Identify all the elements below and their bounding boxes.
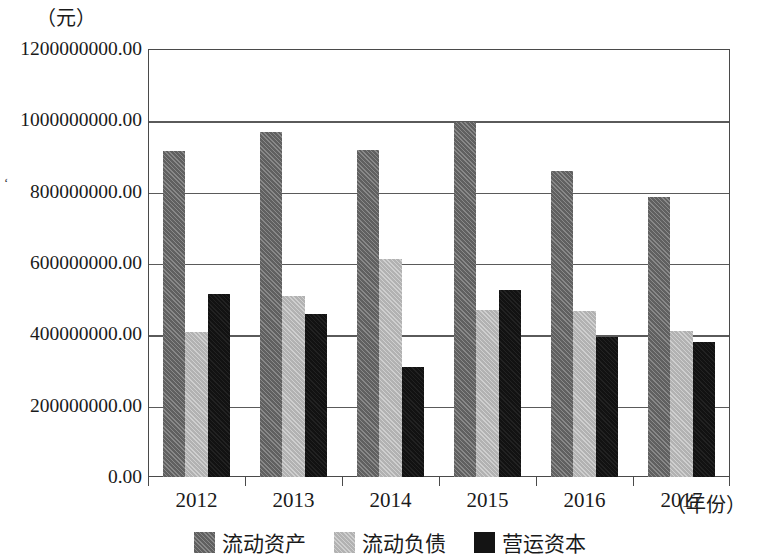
bar-2016-liabilities — [573, 311, 596, 477]
y-axis-tick-label: 800000000.00 — [30, 182, 142, 202]
x-axis-tick — [633, 477, 634, 486]
x-axis-tick-label-2012: 2012 — [176, 489, 218, 512]
y-axis-tick-label: 1200000000.00 — [20, 39, 142, 59]
bar-2017-liabilities — [670, 331, 693, 477]
legend-item-营运资本[interactable]: 营运资本 — [474, 527, 586, 557]
legend-label: 营运资本 — [502, 527, 586, 557]
bar-2015-capital — [499, 290, 522, 477]
y-axis-tick-labels: 0.00200000000.00400000000.00600000000.00… — [0, 0, 142, 560]
x-axis-tick-label-2014: 2014 — [370, 489, 412, 512]
bar-2013-capital — [305, 314, 328, 477]
bars-layer — [148, 49, 730, 477]
legend-item-流动负债[interactable]: 流动负债 — [334, 527, 446, 557]
legend-item-流动资产[interactable]: 流动资产 — [194, 527, 306, 557]
bar-2017-capital — [693, 342, 716, 477]
x-axis-tick-label-2015: 2015 — [467, 489, 509, 512]
x-axis-title: （年份） — [666, 489, 746, 518]
x-axis-tick — [729, 477, 730, 486]
legend-label: 流动资产 — [222, 527, 306, 557]
x-axis-tick-labels: 201220132014201520162017 — [0, 489, 780, 519]
x-axis-tick-label-2013: 2013 — [273, 489, 315, 512]
y-axis-tick-label: 0.00 — [108, 467, 142, 487]
y-axis-tick-label: 400000000.00 — [30, 325, 142, 345]
bar-2016-capital — [596, 337, 619, 477]
bar-2012-capital — [208, 294, 231, 477]
bar-2014-assets — [357, 150, 380, 477]
legend-label: 流动负债 — [362, 527, 446, 557]
dark-gray-hatched-swatch — [194, 532, 215, 553]
x-axis-tick-label-2016: 2016 — [564, 489, 606, 512]
black-swatch — [474, 532, 495, 553]
bar-chart-figure: （元） ‘ 0.00200000000.00400000000.00600000… — [0, 0, 780, 560]
x-axis-tick — [536, 477, 537, 486]
bar-2016-assets — [551, 171, 574, 477]
x-axis-tick — [342, 477, 343, 486]
x-axis-tick — [245, 477, 246, 486]
bar-2012-liabilities — [185, 332, 208, 477]
bar-2013-assets — [260, 132, 283, 477]
x-axis-tick — [439, 477, 440, 486]
bar-2012-assets — [163, 151, 186, 477]
y-axis-tick-label: 1000000000.00 — [20, 111, 142, 131]
bar-2017-assets — [648, 197, 671, 477]
y-axis-tick-label: 600000000.00 — [30, 253, 142, 273]
chart-legend: 流动资产流动负债营运资本 — [0, 527, 780, 557]
bar-2014-liabilities — [379, 259, 402, 477]
bar-2013-liabilities — [282, 296, 305, 477]
bar-2014-capital — [402, 367, 425, 477]
bar-2015-assets — [454, 122, 477, 477]
x-axis-tick — [148, 477, 149, 486]
bar-2015-liabilities — [476, 310, 499, 477]
light-gray-hatched-swatch — [334, 532, 355, 553]
y-axis-tick-label: 200000000.00 — [30, 396, 142, 416]
x-axis-ticks — [148, 477, 730, 486]
